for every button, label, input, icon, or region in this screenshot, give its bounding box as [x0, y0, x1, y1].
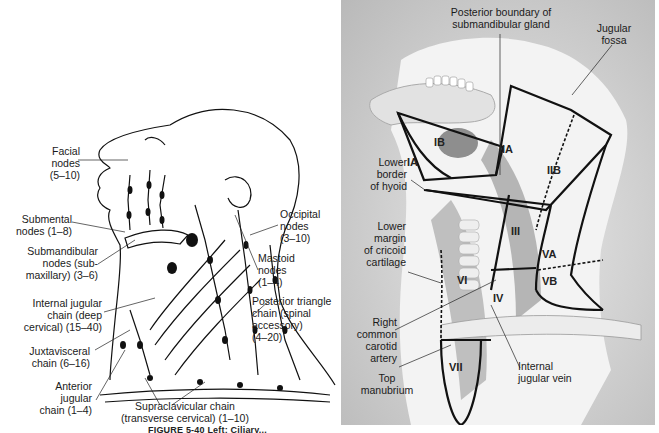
label-posterior-boundary-submandibular: Posterior boundary of submandibular glan… — [441, 6, 561, 30]
zone-VA: VA — [542, 248, 556, 260]
label-anterior-jugular-chain: Anterior jugular chain (1–4) — [0, 380, 92, 416]
right-panel-neck-levels: IB IA IIA IIB III VI IV VA VB VII Poster… — [341, 0, 655, 425]
label-submental-nodes: Submental nodes (1–8) — [0, 213, 72, 237]
zone-VB: VB — [542, 275, 557, 287]
label-facial-nodes: Facial nodes (5–10) — [30, 145, 80, 181]
label-lower-border-hyoid: Lower border of hyoid — [341, 156, 407, 192]
left-panel-lymph-nodes: Facial nodes (5–10) Submental nodes (1–8… — [0, 0, 340, 433]
label-internal-jugular-chain: Internal jugular chain (deep cervical) (… — [0, 297, 102, 333]
label-jugular-fossa: Jugular fossa — [584, 22, 644, 46]
zone-IIA: IIA — [499, 143, 513, 155]
label-juxtavisceral-chain: Juxtavisceral chain (6–16) — [0, 345, 90, 369]
label-occipital-nodes: Occipital nodes (3–10) — [280, 208, 340, 244]
label-right-common-carotid: Right common carotid artery — [341, 316, 397, 364]
label-mastoid-nodes: Mastoid nodes (1–4) — [258, 252, 318, 288]
zone-III: III — [511, 225, 520, 237]
label-top-manubrium: Top manubrium — [356, 372, 418, 396]
zone-VI: VI — [457, 274, 467, 286]
figure-caption: FIGURE 5-40 Left: Ciliary... — [148, 425, 267, 433]
label-submandibular-nodes: Submandibular nodes (sub- maxillary) (3–… — [0, 245, 98, 281]
zone-VII: VII — [449, 361, 462, 373]
zone-IB: IB — [434, 136, 445, 148]
label-posterior-triangle-chain: Posterior triangle chain (spinal accesso… — [252, 295, 342, 343]
zone-IIB: IIB — [547, 164, 561, 176]
label-internal-jugular-vein: Internal jugular vein — [518, 360, 598, 384]
zone-IA: IA — [407, 156, 418, 168]
label-supraclavicular-chain: Supraclavicular chain (transverse cervic… — [105, 400, 265, 424]
zone-IV: IV — [493, 292, 503, 304]
label-lower-margin-cricoid: Lower margin of cricoid cartilage — [341, 220, 406, 268]
